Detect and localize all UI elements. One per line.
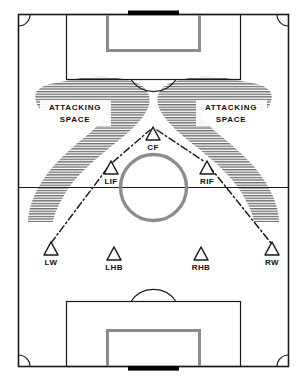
- bottom-goal: [128, 366, 179, 371]
- attacking-space-left-label: ATTACKING SPACE: [40, 100, 111, 126]
- player-label-rhb: RHB: [192, 263, 211, 272]
- zone-label-line2: SPACE: [216, 115, 246, 124]
- player-label-lif: LIF: [104, 177, 117, 186]
- player-label-rw: RW: [265, 258, 279, 267]
- zone-label-line1: ATTACKING: [49, 103, 101, 112]
- player-label-lw: LW: [45, 258, 58, 267]
- player-label-lhb: LHB: [105, 263, 123, 272]
- top-goal: [128, 11, 179, 16]
- player-label-rif: RIF: [200, 177, 214, 186]
- zone-label-line2: SPACE: [60, 115, 90, 124]
- attacking-space-right-label: ATTACKING SPACE: [196, 100, 267, 126]
- pitch-svg: CF LIF RIF LW LHB: [0, 0, 307, 381]
- zone-label-line1: ATTACKING: [205, 103, 257, 112]
- tactical-diagram: CF LIF RIF LW LHB: [0, 0, 307, 381]
- player-label-cf: CF: [147, 143, 158, 152]
